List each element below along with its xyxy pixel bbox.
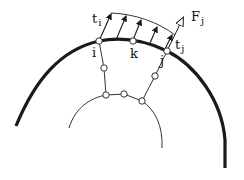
outer-boundary-curve [16,39,225,168]
diagram-svg [0,0,244,180]
node-m2 [152,73,158,79]
label-node-k: k [130,47,138,60]
node-j [164,48,170,54]
traction-envelope [111,13,175,35]
node-b1 [103,92,109,98]
label-node-j: j [160,54,164,67]
node-i [96,38,102,44]
label-node-i: i [92,46,96,59]
label-f-j: Fj [191,10,204,23]
diagram-canvas: ti Fj tj i k j [0,0,244,180]
label-t-i: ti [92,12,101,25]
traction-arrows [99,14,172,49]
inner-arc [69,95,162,148]
node-m1 [101,65,107,71]
node-b2 [121,91,127,97]
node-b3 [139,98,145,104]
node-k [130,38,136,44]
label-t-j: tj [175,38,184,51]
